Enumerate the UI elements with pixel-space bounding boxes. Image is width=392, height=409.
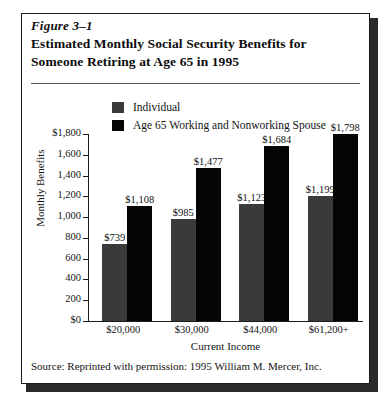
bar: $739 (102, 244, 127, 321)
bar-value-label: $739 (104, 232, 125, 243)
bar: $1,798 (333, 134, 358, 321)
y-axis-tick-label: 1,600 (21, 148, 81, 159)
bar: $985 (171, 219, 196, 321)
bar-value-label: $1,123 (237, 192, 266, 203)
bar-value-label: $1,477 (194, 156, 223, 167)
x-axis-tick-label: $61,200+ (295, 324, 364, 335)
bar: $1,108 (127, 206, 152, 321)
y-axis-tick-label: 1,200 (21, 189, 81, 200)
y-axis-tick-label: 800 (21, 231, 81, 242)
x-axis-tick-label: $44,000 (226, 324, 295, 335)
bar-group: $1,199$1,798 (308, 134, 358, 321)
figure-source: Source: Reprinted with permission: 1995 … (31, 360, 363, 372)
plot-area: $739$1,108$985$1,477$1,123$1,684$1,199$1… (89, 134, 363, 321)
bar-value-label: $1,684 (262, 134, 291, 145)
figure-screenshot: Figure 3–1 Estimated Monthly Social Secu… (0, 0, 392, 409)
bar-value-label: $985 (173, 207, 194, 218)
bar: $1,477 (196, 168, 221, 321)
chart-plot: Monthly Benefits $02004006008001,0001,20… (22, 14, 371, 385)
x-axis-tick-label: $30,000 (158, 324, 227, 335)
y-axis-tick-label: 1,000 (21, 210, 81, 221)
bar-value-label: $1,798 (331, 122, 360, 133)
y-axis-tick-label: 200 (21, 293, 81, 304)
y-axis-tick-label: 1,400 (21, 169, 81, 180)
y-axis-tick-label: $1,800 (21, 127, 81, 138)
x-axis-title: Current Income (88, 340, 363, 352)
bar-value-label: $1,199 (306, 184, 335, 195)
y-axis-tick-label: 600 (21, 252, 81, 263)
bar-group: $1,123$1,684 (239, 134, 289, 321)
y-axis-tick (83, 321, 89, 322)
bar-group: $739$1,108 (102, 134, 152, 321)
bar: $1,123 (239, 204, 264, 321)
x-axis-tick-label: $20,000 (89, 324, 158, 335)
bar: $1,199 (308, 196, 333, 321)
y-axis-tick-label: $0 (21, 314, 81, 325)
bar-value-label: $1,108 (125, 194, 154, 205)
bar: $1,684 (264, 146, 289, 321)
bar-group: $985$1,477 (171, 134, 221, 321)
x-axis-line (88, 321, 363, 322)
figure-box: Figure 3–1 Estimated Monthly Social Secu… (21, 13, 370, 384)
y-axis-tick-label: 400 (21, 272, 81, 283)
